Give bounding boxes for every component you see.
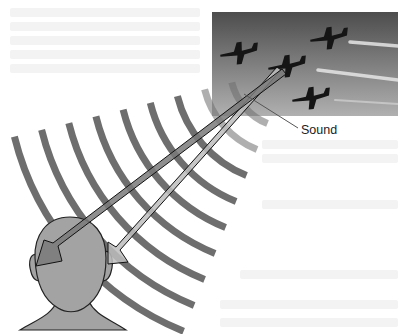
sound-label: Sound bbox=[301, 123, 337, 137]
sound-propagation-diagram: Sound bbox=[0, 0, 398, 334]
